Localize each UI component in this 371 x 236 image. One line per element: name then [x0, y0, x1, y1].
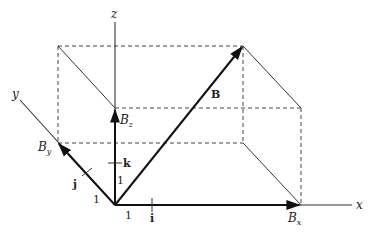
- z-unit-length: 1: [117, 174, 124, 187]
- vector-B-label: B: [211, 88, 220, 101]
- vector-Bx-label: Bx: [287, 211, 302, 227]
- unit-vector-k: k: [123, 157, 131, 170]
- z-axis-label: z: [110, 7, 118, 21]
- vector-B: [115, 47, 242, 205]
- x-axis-label: x: [356, 198, 363, 212]
- component-vectors: [59, 47, 299, 205]
- axes: [20, 22, 352, 205]
- vector-By: [59, 144, 115, 205]
- y-axis-label: y: [11, 87, 19, 101]
- unit-vector-i: i: [150, 212, 154, 225]
- vector-Bz-label: Bz: [119, 113, 134, 129]
- vector-By-label: By: [37, 140, 52, 156]
- vector-components-diagram: z x y B Bz By Bx k j i 1 1 1: [0, 0, 371, 236]
- unit-vector-j: j: [72, 178, 77, 191]
- y-unit-length: 1: [93, 193, 100, 206]
- x-unit-length: 1: [125, 209, 132, 222]
